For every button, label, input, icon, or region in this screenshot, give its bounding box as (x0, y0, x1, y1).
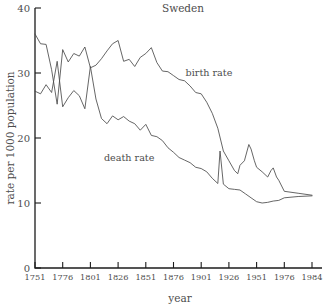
y-tick-label: 40 (17, 3, 30, 14)
chart-container: 1751177618011826185118761901192619511976… (0, 0, 326, 308)
x-tick-label: 1976 (274, 272, 295, 282)
x-tick-label: 1851 (135, 272, 156, 282)
y-tick-label: 0 (24, 263, 30, 274)
y-tick-label: 20 (17, 133, 30, 144)
x-axis-title: year (167, 292, 192, 304)
x-tick-label: 1826 (108, 272, 129, 282)
x-tick-label: 1801 (80, 272, 101, 282)
line-chart: 1751177618011826185118761901192619511976… (0, 0, 326, 308)
series-line-birth-rate (35, 34, 312, 195)
x-axis-ticks: 1751177618011826185118761901192619511976… (25, 262, 323, 282)
series-line-death-rate (35, 61, 312, 203)
series-annotation-death-rate: death rate (104, 152, 155, 163)
x-tick-label: 1876 (163, 272, 184, 282)
x-tick-label: 1951 (246, 272, 267, 282)
y-tick-label: 10 (17, 198, 30, 209)
chart-title: Sweden (162, 2, 204, 14)
chart-labels-group: Swedenbirth ratedeath rateyearrate per 1… (4, 2, 233, 304)
x-tick-label: 1901 (191, 272, 212, 282)
axes-group: 1751177618011826185118761901192619511976… (17, 3, 322, 282)
data-series-group (35, 34, 312, 203)
y-axis-title: rate per 1000 population (4, 71, 16, 204)
x-tick-label: 1926 (218, 272, 239, 282)
series-annotation-birth-rate: birth rate (186, 67, 233, 78)
x-tick-label: 1984 (302, 272, 323, 282)
y-tick-label: 30 (17, 68, 30, 79)
y-axis-ticks: 010203040 (17, 3, 41, 274)
x-tick-label: 1776 (52, 272, 73, 282)
axis-frame (35, 8, 322, 268)
